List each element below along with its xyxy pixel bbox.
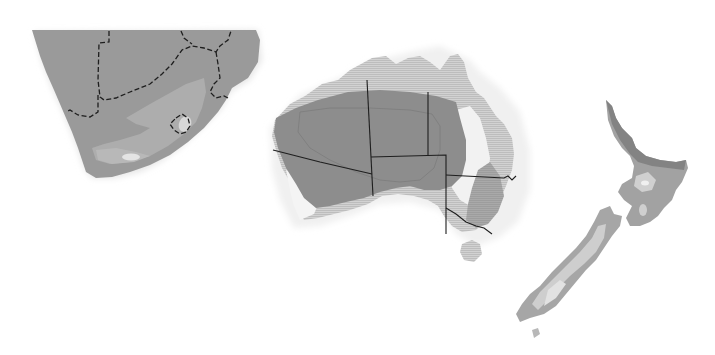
ruahine-range (639, 204, 647, 216)
map-figure (0, 0, 715, 355)
australia-map (270, 46, 530, 262)
southern-africa-map (32, 30, 262, 178)
lake-taupo (641, 181, 649, 186)
stewart-island (532, 328, 540, 338)
africa-highland-patch (122, 154, 140, 161)
northland-dark-zone (606, 100, 686, 170)
southern-alps (532, 224, 606, 310)
map-canvas (0, 0, 715, 355)
new-zealand-map (516, 100, 688, 338)
